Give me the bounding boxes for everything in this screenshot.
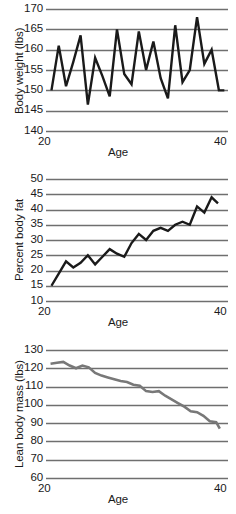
y-axis-tick-label: 100 (24, 397, 43, 409)
y-axis-tick-label: 60 (30, 471, 43, 483)
figure-container: Body weight (lbs) Age 140145150155160165… (0, 0, 236, 514)
y-axis-tick-label: 160 (24, 42, 43, 54)
y-axis-tick-label: 120 (24, 361, 43, 373)
y-axis-tick-label: 170 (24, 2, 43, 14)
x-axis-tick-label: 20 (38, 305, 51, 317)
x-axis-label-age-1: Age (0, 146, 236, 158)
y-axis-tick-label: 140 (24, 124, 43, 136)
y-axis-tick-label: 110 (25, 379, 43, 391)
chart-panel-lean-body-mass: Lean body mass (lbs) Age 607080901001101… (0, 338, 236, 514)
x-axis-tick-label: 20 (38, 482, 51, 494)
y-axis-tick-label: 165 (24, 22, 43, 34)
y-axis-tick-label: 70 (30, 452, 43, 464)
x-axis-label-age-3: Age (0, 493, 236, 505)
data-series-line (51, 362, 220, 429)
y-axis-tick-label: 40 (30, 202, 43, 214)
y-axis-tick-label: 10 (30, 294, 43, 306)
y-axis-tick-label: 150 (24, 83, 43, 95)
y-axis-tick-label: 155 (24, 63, 43, 75)
y-axis-tick-label: 45 (30, 187, 43, 199)
chart-panel-percent-body-fat: Percent body fat Age 1015202530354045502… (0, 168, 236, 338)
y-axis-tick-label: 130 (24, 343, 43, 355)
x-axis-tick-label: 40 (214, 305, 227, 317)
y-axis-tick-label: 20 (30, 263, 43, 275)
y-axis-tick-label: 15 (30, 278, 43, 290)
x-axis-tick-label: 40 (214, 135, 227, 147)
y-axis-tick-label: 145 (24, 103, 43, 115)
data-series-line (51, 17, 224, 104)
y-axis-tick-label: 25 (30, 248, 43, 260)
y-axis-tick-label: 35 (30, 217, 43, 229)
chart-panel-body-weight: Body weight (lbs) Age 140145150155160165… (0, 0, 236, 168)
x-axis-tick-label: 40 (214, 482, 227, 494)
y-axis-label-percent-body-fat: Percent body fat (13, 199, 25, 281)
y-axis-tick-label: 90 (30, 416, 43, 428)
y-axis-tick-label: 30 (30, 233, 43, 245)
x-axis-label-age-2: Age (0, 316, 236, 328)
x-axis-tick-label: 20 (38, 135, 51, 147)
y-axis-label-lean-body-mass: Lean body mass (lbs) (13, 360, 25, 468)
y-axis-tick-label: 50 (30, 172, 43, 184)
y-axis-tick-label: 80 (30, 434, 43, 446)
